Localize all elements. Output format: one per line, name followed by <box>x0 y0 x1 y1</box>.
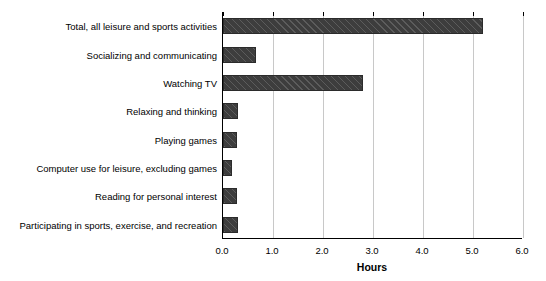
bar-row: Computer use for leisure, excluding game… <box>223 154 522 182</box>
category-label: Watching TV <box>163 77 217 88</box>
bar-row: Total, all leisure and sports activities <box>223 12 522 40</box>
category-label: Computer use for leisure, excluding game… <box>36 163 217 174</box>
bar-row: Socializing and communicating <box>223 40 522 68</box>
bar-row: Playing games <box>223 126 522 154</box>
gridline <box>523 12 524 238</box>
x-tick-label: 0.0 <box>215 245 228 256</box>
bar <box>223 18 483 34</box>
bar <box>223 132 237 148</box>
category-label: Playing games <box>155 134 217 145</box>
plot-area: Total, all leisure and sports activities… <box>222 12 522 239</box>
bar <box>223 217 238 233</box>
bar <box>223 160 232 176</box>
category-label: Participating in sports, exercise, and r… <box>20 219 218 230</box>
bar <box>223 103 238 119</box>
x-tick <box>223 12 224 16</box>
category-label: Relaxing and thinking <box>126 106 217 117</box>
x-tick <box>273 12 274 16</box>
bar-chart: Total, all leisure and sports activities… <box>0 0 546 281</box>
x-axis-title: Hours <box>357 261 387 273</box>
x-tick <box>473 12 474 16</box>
x-axis: 0.01.02.03.04.05.06.0 Hours <box>222 239 522 279</box>
category-label: Total, all leisure and sports activities <box>65 21 217 32</box>
x-tick <box>523 12 524 16</box>
x-tick-label: 1.0 <box>265 245 278 256</box>
bar <box>223 75 363 91</box>
x-tick <box>423 12 424 16</box>
category-label: Socializing and communicating <box>87 49 217 60</box>
bar-row: Participating in sports, exercise, and r… <box>223 211 522 239</box>
bar <box>223 188 237 204</box>
x-tick <box>323 12 324 16</box>
x-tick-label: 6.0 <box>515 245 528 256</box>
bar-row: Reading for personal interest <box>223 182 522 210</box>
bar <box>223 47 256 63</box>
bar-row: Relaxing and thinking <box>223 97 522 125</box>
bar-row: Watching TV <box>223 69 522 97</box>
category-label: Reading for personal interest <box>95 191 217 202</box>
x-tick-label: 3.0 <box>365 245 378 256</box>
x-tick <box>373 12 374 16</box>
x-tick-label: 4.0 <box>415 245 428 256</box>
bar-rows: Total, all leisure and sports activities… <box>223 12 522 238</box>
x-tick-label: 5.0 <box>465 245 478 256</box>
x-tick-label: 2.0 <box>315 245 328 256</box>
